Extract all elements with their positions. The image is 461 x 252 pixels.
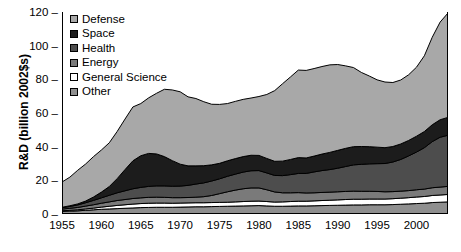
legend-item-general-science: General Science [70, 70, 167, 85]
rd-funding-stacked-area-chart: R&D (billion 2002$s) 0 –20 –40 –60 –80 –… [0, 0, 461, 252]
legend-item-other: Other [70, 85, 167, 100]
y-tick-40: 40 – [36, 141, 58, 153]
legend-label: General Science [82, 72, 167, 84]
y-tick-20: 20 – [36, 174, 58, 186]
x-tick-1990: 1990 [325, 219, 351, 231]
legend-label: Defense [82, 14, 125, 26]
legend-swatch-icon [70, 15, 78, 23]
legend-item-space: Space [70, 27, 167, 42]
legend-swatch-icon [70, 73, 78, 81]
x-tick-1980: 1980 [246, 219, 272, 231]
legend-label: Space [82, 28, 115, 40]
x-tick-1955: 1955 [49, 219, 75, 231]
x-tick-1985: 1985 [286, 219, 312, 231]
x-tick-1975: 1975 [207, 219, 233, 231]
x-tick-1970: 1970 [167, 219, 193, 231]
y-tick-120: 120 – [29, 6, 58, 18]
legend-swatch-icon [70, 88, 78, 96]
x-axis-tick-labels: 1955196019651970197519801985199019952000 [62, 219, 448, 239]
legend-item-energy: Energy [70, 56, 167, 71]
legend-swatch-icon [70, 59, 78, 67]
x-tick-1960: 1960 [89, 219, 115, 231]
x-tick-1965: 1965 [128, 219, 154, 231]
y-tick-100: 100 – [29, 40, 58, 52]
x-tick-2000: 2000 [404, 219, 430, 231]
chart-title-clipped [0, 0, 461, 3]
legend-swatch-icon [70, 30, 78, 38]
legend-label: Energy [82, 57, 118, 69]
legend-label: Other [82, 86, 111, 98]
chart-legend: DefenseSpaceHealthEnergyGeneral ScienceO… [70, 12, 167, 99]
y-axis-tick-labels: 0 –20 –40 –60 –80 –100 –120 – [0, 12, 58, 214]
legend-item-health: Health [70, 41, 167, 56]
y-tick-80: 80 – [36, 73, 58, 85]
y-tick-60: 60 – [36, 107, 58, 119]
legend-item-defense: Defense [70, 12, 167, 27]
legend-label: Health [82, 43, 115, 55]
x-tick-1995: 1995 [364, 219, 390, 231]
legend-swatch-icon [70, 44, 78, 52]
